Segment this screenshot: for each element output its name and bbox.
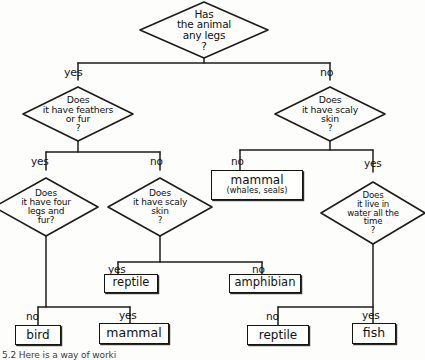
edge-label-water-branch-yes: yes [362, 309, 380, 321]
edge-label-water-no: no [252, 263, 265, 275]
edge-label-water-branch-no: no [266, 310, 279, 322]
terminal-bird-label: bird [26, 329, 49, 341]
terminal-mammal-label: mammal [106, 327, 161, 340]
terminal-reptile-left[interactable]: reptile [104, 274, 158, 293]
decision-lives-in-water[interactable]: Does it live in water all the time ? [321, 182, 425, 244]
edge-label-feathers-yes: yes [31, 155, 49, 167]
decision-feathers-or-fur-line-3: ? [76, 123, 81, 132]
terminal-amphibian-label: amphibian [235, 277, 296, 289]
figure-caption: 5.2 Here is a way of worki [2, 351, 232, 360]
edge-label-scaly-right-no: no [231, 155, 244, 167]
decision-scaly-skin-has-legs[interactable]: Does it have scaly skin ? [108, 178, 212, 236]
decision-scaly-skin-has-legs-line-3: ? [158, 216, 163, 225]
edge-label-legs-yes: yes [64, 66, 82, 79]
edge-label-legs-no: no [320, 66, 333, 79]
terminal-reptile-left-label: reptile [113, 277, 150, 289]
terminal-mammal-aquatic-sublabel: (whales, seals) [227, 186, 288, 194]
decision-feathers-or-fur[interactable]: Does it have feathers or fur ? [23, 87, 133, 141]
edge-label-fourlegs-yes: yes [119, 309, 137, 321]
edge-label-feathers-no: no [150, 155, 163, 167]
decision-lives-in-water-line-4: ? [371, 226, 375, 235]
decision-scaly-skin-no-legs-line-3: ? [328, 123, 333, 132]
terminal-bird[interactable]: bird [15, 325, 61, 345]
decision-has-legs[interactable]: Has the animal any legs ? [140, 2, 268, 58]
decision-scaly-skin-no-legs[interactable]: Does it have scaly skin ? [275, 87, 385, 141]
terminal-fish-label: fish [363, 327, 385, 340]
decision-four-legs-and-fur-line-3: fur? [38, 216, 55, 225]
edge-label-scaly-right-yes: yes [364, 157, 382, 169]
terminal-mammal[interactable]: mammal [99, 323, 169, 344]
edge-label-scaly-left-yes: yes [108, 263, 126, 275]
edge-label-fourlegs-no: no [26, 310, 39, 322]
decision-four-legs-and-fur[interactable]: Does it have four legs and fur? [0, 178, 98, 236]
terminal-mammal-aquatic[interactable]: mammal (whales, seals) [211, 170, 303, 200]
terminal-reptile-right[interactable]: reptile [247, 325, 309, 345]
terminal-fish[interactable]: fish [352, 323, 396, 344]
flowchart-canvas: Has the animal any legs ? Does it have f… [0, 0, 425, 360]
decision-has-legs-line-3: ? [201, 41, 206, 52]
terminal-reptile-right-label: reptile [259, 329, 297, 341]
terminal-amphibian[interactable]: amphibian [229, 274, 301, 293]
